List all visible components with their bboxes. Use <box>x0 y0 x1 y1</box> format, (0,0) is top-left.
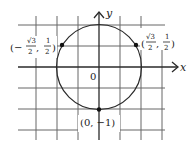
svg-text:√3: √3 <box>27 37 36 45</box>
svg-text:): ) <box>171 38 175 49</box>
svg-text:(−: (− <box>10 42 22 53</box>
svg-text:2: 2 <box>28 48 32 56</box>
point-left <box>60 43 64 47</box>
svg-text:): ) <box>52 42 56 53</box>
svg-text:√3: √3 <box>146 33 155 41</box>
svg-text:(: ( <box>141 38 145 49</box>
unit-circle-diagram: x y 0 (− √3 2 , 1 2 ) ( √3 2 , 1 2 ) (0,… <box>0 0 191 144</box>
svg-text:2: 2 <box>148 44 152 52</box>
point-right <box>134 43 138 47</box>
svg-text:1: 1 <box>165 33 169 41</box>
x-axis-label: x <box>180 61 187 74</box>
label-bottom-point: (0, −1) <box>80 117 115 128</box>
svg-text:,: , <box>36 42 39 53</box>
svg-text:1: 1 <box>46 37 50 45</box>
svg-text:,: , <box>156 38 159 49</box>
svg-text:2: 2 <box>164 44 168 52</box>
svg-text:2: 2 <box>45 48 49 56</box>
point-bottom <box>97 107 101 111</box>
y-axis-label: y <box>105 7 113 20</box>
origin-label: 0 <box>90 71 96 82</box>
